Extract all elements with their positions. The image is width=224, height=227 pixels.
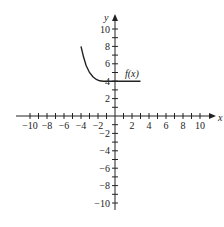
y-tick-label: −2 xyxy=(99,128,110,139)
x-tick-label: 8 xyxy=(181,120,186,131)
x-tick-label: −4 xyxy=(76,120,87,131)
y-axis-label: y xyxy=(103,12,109,23)
x-tick-label: 4 xyxy=(147,120,152,131)
x-axis-arrow-icon xyxy=(209,113,216,119)
y-tick-label: −4 xyxy=(99,145,110,156)
function-label: f(x) xyxy=(125,68,140,80)
x-tick-label: 10 xyxy=(195,120,205,131)
y-tick-label: −6 xyxy=(99,163,110,174)
chart-canvas: x y −10−8−6−4−2246810 108642−2−4−6−8−10 … xyxy=(0,0,224,227)
x-tick-label: 2 xyxy=(130,120,135,131)
x-tick-label: −8 xyxy=(42,120,53,131)
y-tick-label: −10 xyxy=(94,198,110,209)
x-tick-labels: −10−8−6−4−2246810 xyxy=(22,120,205,131)
x-tick-label: 6 xyxy=(164,120,169,131)
x-tick-label: −10 xyxy=(22,120,38,131)
y-tick-label: 2 xyxy=(105,93,110,104)
y-tick-label: 8 xyxy=(105,41,110,52)
y-tick-label: 10 xyxy=(100,24,110,35)
y-tick-label: 6 xyxy=(105,58,110,69)
y-axis-arrow-icon xyxy=(112,14,118,21)
x-axis-label: x xyxy=(217,112,223,123)
y-tick-label: −8 xyxy=(99,180,110,191)
x-tick-label: −6 xyxy=(59,120,70,131)
